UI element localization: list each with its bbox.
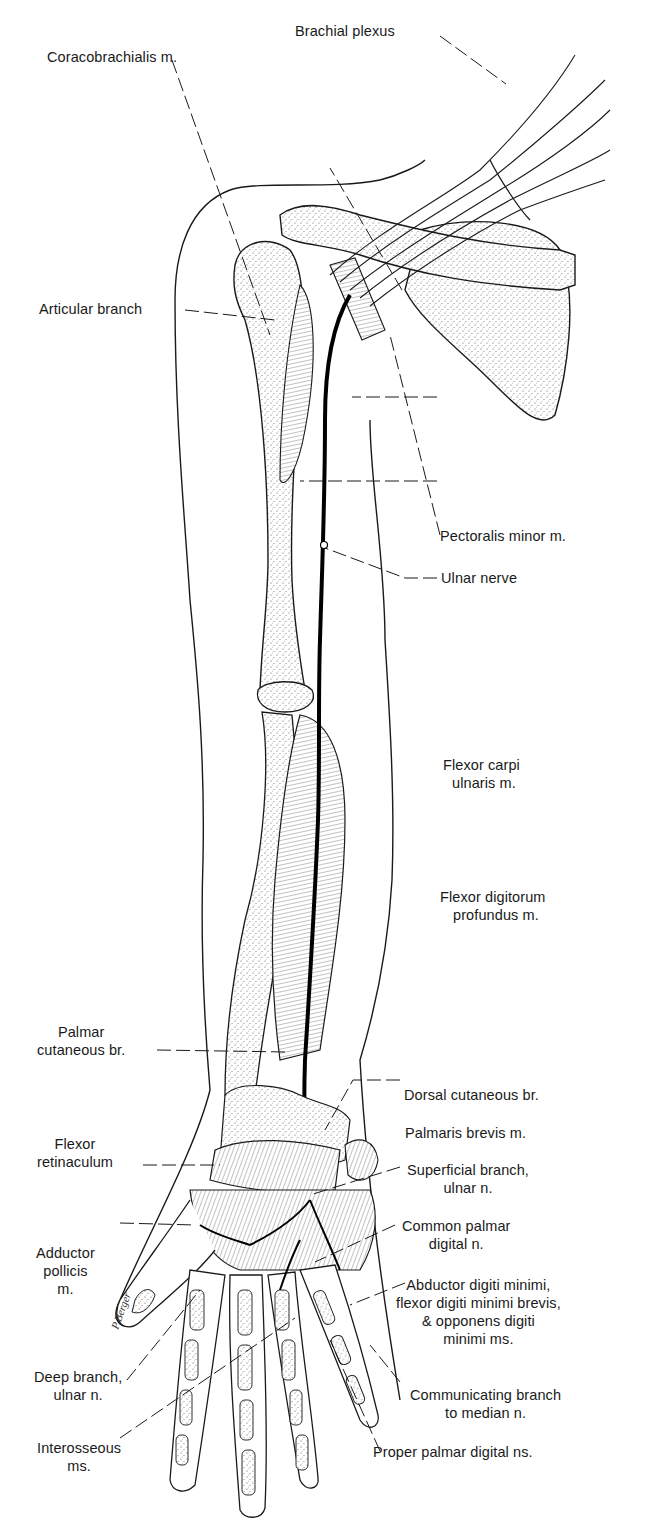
label-common-palmar-digital: Common palmar digital n. (402, 1217, 510, 1253)
label-interosseous: Interosseous ms. (37, 1439, 121, 1475)
elbow-joint (257, 682, 313, 712)
label-superficial-branch: Superficial branch, ulnar n. (407, 1161, 529, 1197)
label-deep-branch: Deep branch, ulnar n. (34, 1368, 122, 1404)
label-adductor-pollicis: Adductor pollicis m. (36, 1244, 95, 1298)
label-flexor-retinaculum: Flexor retinaculum (37, 1135, 113, 1171)
label-coracobrachialis: Coracobrachialis m. (47, 48, 177, 66)
label-palmar-cutaneous: Palmar cutaneous br. (37, 1023, 125, 1059)
label-communicating-branch: Communicating branch to median n. (410, 1386, 561, 1422)
flexor-retinaculum (210, 1141, 340, 1192)
label-articular-branch: Articular branch (39, 300, 142, 318)
label-abductor-digiti-minimi: Abductor digiti minimi, flexor digiti mi… (396, 1276, 561, 1348)
label-pectoralis-minor: Pectoralis minor m. (440, 527, 566, 545)
label-proper-palmar-digital: Proper palmar digital ns. (373, 1443, 533, 1461)
label-dorsal-cutaneous: Dorsal cutaneous br. (404, 1086, 539, 1104)
palmaris-brevis (345, 1140, 378, 1180)
label-flexor-carpi-ulnaris: Flexor carpi ulnaris m. (443, 756, 520, 792)
label-flexor-digitorum-profundus: Flexor digitorum profundus m. (440, 888, 546, 924)
label-ulnar-nerve: Ulnar nerve (441, 569, 517, 587)
label-brachial-plexus: Brachial plexus (295, 22, 395, 40)
palm (190, 1190, 375, 1270)
label-palmaris-brevis: Palmaris brevis m. (405, 1124, 526, 1142)
